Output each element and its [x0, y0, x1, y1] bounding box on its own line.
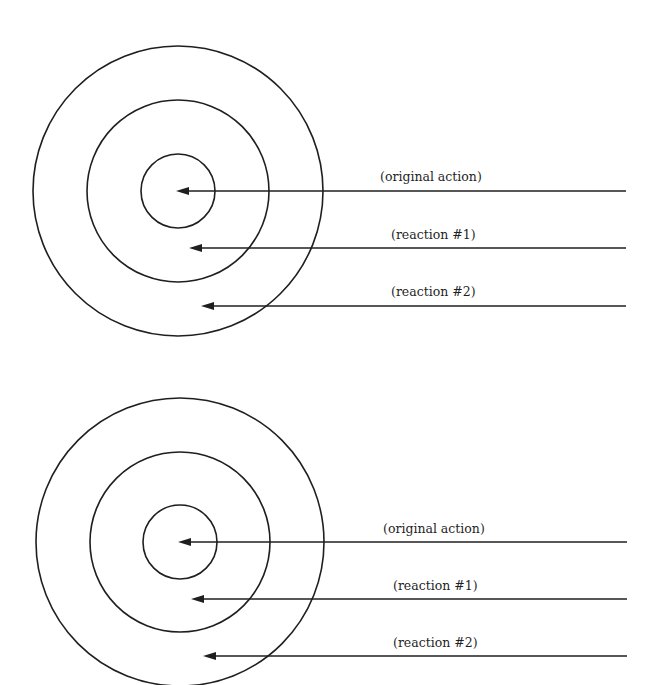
top-arrow-reaction-2	[201, 302, 626, 310]
arrowhead-icon	[176, 187, 189, 195]
top-label-reaction-2: (reaction #2)	[391, 286, 476, 299]
top-label-original-action: (original action)	[380, 171, 482, 184]
bottom-diagram	[36, 398, 627, 685]
bottom-label-reaction-1: (reaction #1)	[393, 580, 478, 593]
bottom-arrow-reaction-1	[191, 595, 627, 603]
arrowhead-icon	[201, 302, 214, 310]
bottom-arrow-original-action	[178, 538, 627, 546]
bottom-label-reaction-2: (reaction #2)	[393, 637, 478, 650]
top-arrow-reaction-1	[189, 244, 626, 252]
top-diagram	[33, 46, 626, 336]
arrowhead-icon	[178, 538, 191, 546]
arrowhead-icon	[189, 244, 202, 252]
arrowhead-icon	[191, 595, 204, 603]
bottom-label-original-action: (original action)	[383, 523, 485, 536]
top-label-reaction-1: (reaction #1)	[391, 229, 476, 242]
ripple-diagram-canvas	[0, 0, 665, 685]
bottom-arrow-reaction-2	[203, 652, 627, 660]
top-arrow-original-action	[176, 187, 626, 195]
arrowhead-icon	[203, 652, 216, 660]
